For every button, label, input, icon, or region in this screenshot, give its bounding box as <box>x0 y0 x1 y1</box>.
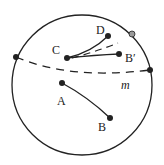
geometry-diagram: D C B′ m A B <box>0 0 164 165</box>
point-m-right <box>147 67 153 73</box>
point-d <box>105 33 111 39</box>
label-m: m <box>121 78 130 92</box>
label-a: A <box>57 94 66 108</box>
point-b <box>107 115 113 121</box>
label-bprime: B′ <box>125 51 136 65</box>
label-c: C <box>52 43 60 57</box>
point-boundary-gray <box>129 31 135 37</box>
label-b: B <box>98 120 106 134</box>
point-m-left <box>13 54 19 60</box>
point-c <box>64 55 70 61</box>
label-d: D <box>96 23 105 37</box>
arc-a-b <box>62 83 110 118</box>
point-a <box>59 80 65 86</box>
point-bprime <box>116 51 122 57</box>
